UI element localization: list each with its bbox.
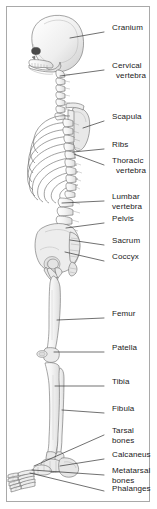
femur-bone — [43, 259, 62, 362]
orbit-bone — [32, 47, 41, 54]
label-fibula: Fibula — [112, 404, 134, 414]
label-ribs: Ribs — [112, 140, 128, 150]
label-sacrum: Sacrum — [112, 236, 140, 246]
skeleton-figure: Cranium Cervicalvertebra Scapula Ribs Th… — [0, 0, 157, 509]
scapula-bone — [72, 107, 90, 150]
label-coccyx: Coccyx — [112, 252, 139, 262]
label-cervical-vertebra: Cervicalvertebra — [112, 61, 146, 80]
label-lumbar-vertebra: Lumbarvertebra — [112, 192, 142, 211]
label-thoracic-vertebra: Thoracicvertebra — [112, 156, 146, 175]
label-cranium: Cranium — [112, 23, 143, 33]
label-pelvis: Pelvis — [112, 214, 134, 224]
label-femur: Femur — [112, 309, 136, 319]
leader-line-cervical-vertebra — [60, 70, 104, 76]
coccyx-bone — [69, 262, 77, 276]
label-phalanges: Phalanges — [112, 484, 151, 494]
patella-bone — [37, 351, 47, 358]
leader-line-fibula — [62, 410, 104, 413]
leader-line-thoracic-vertebra — [74, 154, 104, 165]
label-patella: Patella — [112, 343, 137, 353]
leader-line-femur — [57, 318, 104, 320]
label-metatarsal-bones: Metatarsalbones — [112, 466, 150, 485]
label-tarsal-bones: Tarsalbones — [112, 426, 134, 445]
label-calcaneus: Calcaneus — [112, 450, 151, 460]
label-tibia: Tibia — [112, 377, 130, 387]
label-scapula: Scapula — [112, 112, 142, 122]
calcaneus-bone — [59, 458, 79, 477]
